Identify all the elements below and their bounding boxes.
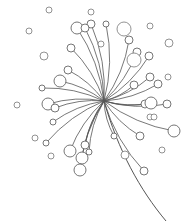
seed-bulb <box>81 141 89 149</box>
seed-bulb <box>146 73 154 81</box>
seed-bulb <box>103 21 109 27</box>
floating-seed <box>151 114 157 120</box>
floating-seed <box>26 28 32 34</box>
seed-bulb <box>51 104 59 112</box>
seed-bulb <box>86 149 92 155</box>
floating-seed <box>165 74 171 80</box>
floating-seed <box>147 23 153 29</box>
floating-seed <box>14 102 20 108</box>
floating-seed <box>165 39 173 47</box>
seed-bulb <box>111 133 117 139</box>
seed-filament <box>104 101 167 106</box>
floating-seed <box>98 41 104 47</box>
seed-bulb <box>140 167 148 175</box>
floating-seed <box>40 52 48 60</box>
seed-filament <box>48 99 104 104</box>
floating-seed <box>32 135 38 141</box>
seed-bulbs <box>39 20 180 176</box>
floating-seed <box>117 22 131 36</box>
seed-bulb <box>136 132 144 140</box>
seed-bulb <box>43 140 49 146</box>
seed-bulb <box>163 100 171 108</box>
dandelion-illustration <box>0 0 192 221</box>
seed-filament <box>104 24 110 101</box>
seed-bulb <box>125 36 133 44</box>
seed-bulb <box>145 97 157 109</box>
seed-bulb <box>64 66 72 74</box>
seed-bulb <box>39 85 45 91</box>
seed-bulb <box>154 80 162 88</box>
seed-bulb <box>145 52 153 60</box>
floating-seed <box>127 53 141 67</box>
floating-seed <box>159 147 165 153</box>
seed-bulb <box>64 145 76 157</box>
floating-seed <box>88 9 94 15</box>
seed-bulb <box>81 24 89 32</box>
seed-bulb <box>130 81 138 89</box>
seed-bulb <box>74 164 86 176</box>
seed-bulb <box>67 44 75 52</box>
seed-bulb <box>54 75 66 87</box>
seed-bulb <box>168 125 180 137</box>
seed-bulb <box>50 119 56 125</box>
floating-seed <box>46 7 52 13</box>
seed-filament <box>82 101 104 158</box>
floating-seed <box>48 153 54 159</box>
floating-seed <box>121 151 129 159</box>
